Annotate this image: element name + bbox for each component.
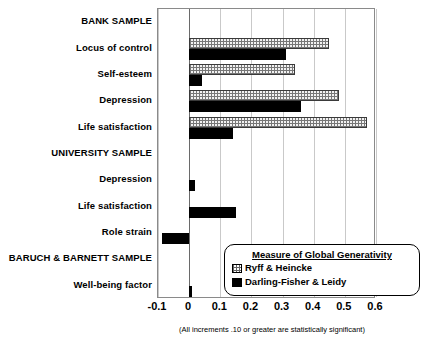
x-tick-label: 0.2 [243, 300, 258, 312]
x-axis: -0.100.10.20.30.40.50.6 [157, 298, 375, 318]
x-tick-label: 0.1 [212, 300, 227, 312]
legend-item-ryff: Ryff & Heincke [232, 261, 413, 275]
significance-note: (All increments .10 or greater are stati… [157, 325, 387, 334]
category-label: BANK SAMPLE [0, 16, 152, 26]
bar-darling-fisher-leidy-4 [189, 128, 233, 139]
x-tick-label: 0.3 [274, 300, 289, 312]
category-label: Life satisfaction [0, 201, 152, 211]
category-label: Locus of control [0, 43, 152, 53]
bar-darling-fisher-leidy-8 [162, 233, 189, 244]
x-tick-label: 0.6 [367, 300, 382, 312]
x-tick-label: 0 [185, 300, 191, 312]
x-tick-label: -0.1 [148, 300, 167, 312]
bar-darling-fisher-leidy-7 [189, 207, 236, 218]
category-label: UNIVERSITY SAMPLE [0, 148, 152, 158]
category-label: Depression [0, 95, 152, 105]
bar-darling-fisher-leidy-6 [189, 180, 195, 191]
x-tick-label: 0.4 [305, 300, 320, 312]
category-label: Depression [0, 174, 152, 184]
bar-darling-fisher-leidy-3 [189, 101, 301, 112]
category-label: BARUCH & BARNETT SAMPLE [0, 253, 152, 263]
bar-ryff-heincke-3 [189, 90, 338, 101]
legend: Measure of Global Generativity Ryff & He… [224, 244, 420, 296]
category-label: Self-esteem [0, 69, 152, 79]
bar-darling-fisher-leidy-10 [189, 286, 192, 297]
legend-label-ryff: Ryff & Heincke [245, 261, 312, 275]
category-label: Life satisfaction [0, 122, 152, 132]
category-label: Well-being factor [0, 280, 152, 290]
generativity-bar-chart: BANK SAMPLELocus of controlSelf-esteemDe… [0, 0, 424, 351]
legend-title: Measure of Global Generativity [231, 248, 413, 261]
bar-ryff-heincke-2 [189, 64, 295, 75]
bar-ryff-heincke-1 [189, 38, 329, 49]
legend-item-darling: Darling-Fisher & Leidy [232, 275, 413, 289]
legend-swatch-icon-darling [232, 278, 242, 287]
legend-label-darling: Darling-Fisher & Leidy [245, 275, 346, 289]
bar-ryff-heincke-4 [189, 117, 367, 128]
bar-darling-fisher-leidy-2 [189, 75, 201, 86]
x-tick-label: 0.5 [336, 300, 351, 312]
category-axis-labels: BANK SAMPLELocus of controlSelf-esteemDe… [0, 8, 152, 298]
bar-darling-fisher-leidy-1 [189, 49, 286, 60]
legend-swatch-icon-ryff [232, 264, 242, 273]
category-label: Role strain [0, 227, 152, 237]
